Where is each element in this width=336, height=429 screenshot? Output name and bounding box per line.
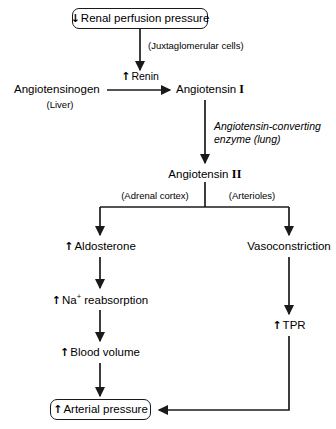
edge-label-juxtaglomerular-cells: (Juxtaglomerular cells)	[148, 41, 244, 52]
up-arrow-icon: ↑	[52, 294, 61, 307]
up-arrow-icon: ↑	[272, 319, 281, 332]
angiotensin-ii-numeral: II	[232, 167, 242, 181]
tpr-label: TPR	[283, 319, 306, 331]
node-na-reabsorption: ↑Na+ reabsorption	[52, 293, 148, 307]
node-angiotensinogen: Angiotensinogen	[14, 83, 100, 96]
up-arrow-icon: ↑	[60, 346, 69, 359]
angiotensin-ii-label: Angiotensin	[168, 168, 228, 180]
node-blood-volume: ↑Blood volume	[60, 346, 140, 360]
down-arrow-icon: ↓	[71, 12, 80, 25]
node-vasoconstriction: Vasoconstriction	[247, 240, 331, 253]
na-reabsorption-label-post: reabsorption	[81, 294, 148, 306]
node-arterial-pressure: ↑Arterial pressure	[50, 399, 151, 420]
node-angiotensin-ii: Angiotensin II	[168, 168, 241, 182]
node-angiotensinogen-sublabel: (Liver)	[47, 100, 74, 111]
renal-perfusion-pressure-text: ↓Renal perfusion pressure	[71, 12, 210, 25]
node-renal-perfusion-pressure: ↓Renal perfusion pressure	[72, 8, 208, 29]
blood-volume-label: Blood volume	[70, 346, 140, 358]
edge-label-ace-enzyme: Angiotensin-converting enzyme (lung)	[214, 120, 334, 146]
node-tpr: ↑TPR	[272, 319, 305, 333]
angiotensin-i-numeral: I	[239, 82, 244, 96]
angiotensin-i-label: Angiotensin	[176, 83, 236, 95]
up-arrow-icon: ↑	[121, 70, 130, 83]
flowchart-connector-lines	[0, 0, 336, 429]
raas-flowchart: ↓Renal perfusion pressure (Juxtaglomerul…	[0, 0, 336, 429]
node-angiotensin-i: Angiotensin I	[176, 83, 244, 97]
aldosterone-label: Aldosterone	[74, 240, 135, 252]
edge-label-arterioles: (Arterioles)	[229, 191, 275, 202]
na-reabsorption-label-pre: Na	[62, 294, 77, 306]
arterial-pressure-label: Arterial pressure	[63, 403, 147, 415]
up-arrow-icon: ↑	[64, 240, 73, 253]
node-renin: ↑Renin	[121, 70, 159, 84]
renal-perfusion-pressure-label: Renal perfusion pressure	[81, 12, 210, 24]
up-arrow-icon: ↑	[53, 403, 62, 416]
node-aldosterone: ↑Aldosterone	[64, 240, 136, 254]
arterial-pressure-text: ↑Arterial pressure	[53, 403, 148, 416]
edge-label-adrenal-cortex: (Adrenal cortex)	[121, 191, 189, 202]
renin-label: Renin	[131, 70, 158, 82]
